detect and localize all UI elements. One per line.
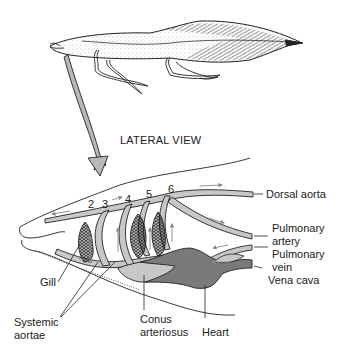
view-title: LATERAL VIEW (120, 134, 202, 146)
label-dorsal-aorta: Dorsal aorta (266, 188, 327, 200)
label-systemic-aortae-1: Systemic (14, 316, 59, 328)
lungfish-circulation-diagram: LATERAL VIEW (0, 0, 340, 360)
label-pulmonary-vein-2: vein (272, 261, 292, 273)
label-gill: Gill (40, 276, 56, 288)
zoom-arrow (64, 55, 108, 176)
label-systemic-aortae-2: aortae (14, 329, 45, 341)
arch-3 (95, 210, 110, 266)
arch-number-3: 3 (102, 198, 108, 210)
pulmonary-artery-vessel (168, 197, 252, 239)
gill-1 (78, 222, 93, 262)
label-pulmonary-vein-1: Pulmonary (272, 248, 325, 260)
arch-number-5: 5 (146, 188, 152, 200)
label-conus-1: Conus (140, 313, 172, 325)
label-heart: Heart (202, 326, 229, 338)
whole-fish-illustration (50, 21, 303, 94)
label-vena-cava: Vena cava (268, 274, 320, 286)
label-conus-2: arteriosus (140, 326, 189, 338)
arch-number-6: 6 (168, 183, 174, 195)
arch-number-4: 4 (125, 193, 131, 205)
arch-number-2: 2 (88, 198, 94, 210)
label-pulmonary-artery-2: artery (272, 235, 301, 247)
label-pulmonary-artery-1: Pulmonary (272, 222, 325, 234)
